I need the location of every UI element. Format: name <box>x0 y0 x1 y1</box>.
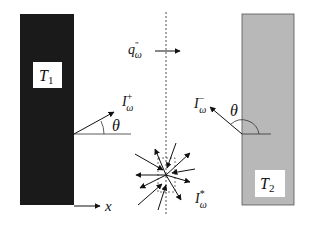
radiation-diagram: T1 T2 q"ω θ I+ω θ I−ω <box>0 0 309 233</box>
backward-intensity-label: I−ω <box>193 93 206 115</box>
left-angle-label: θ <box>112 117 120 134</box>
flux-label: q"ω <box>128 40 142 60</box>
right-angle-label: θ <box>230 102 238 119</box>
left-wall <box>20 14 74 205</box>
forward-intensity-label: I+ω <box>121 91 133 113</box>
volume-intensity-label: I*ω <box>194 188 207 210</box>
forward-intensity-arrow <box>74 112 114 134</box>
left-angle-arc <box>101 121 104 134</box>
scattered-radiation-arrows <box>135 143 195 210</box>
x-axis-label: x <box>104 198 112 214</box>
